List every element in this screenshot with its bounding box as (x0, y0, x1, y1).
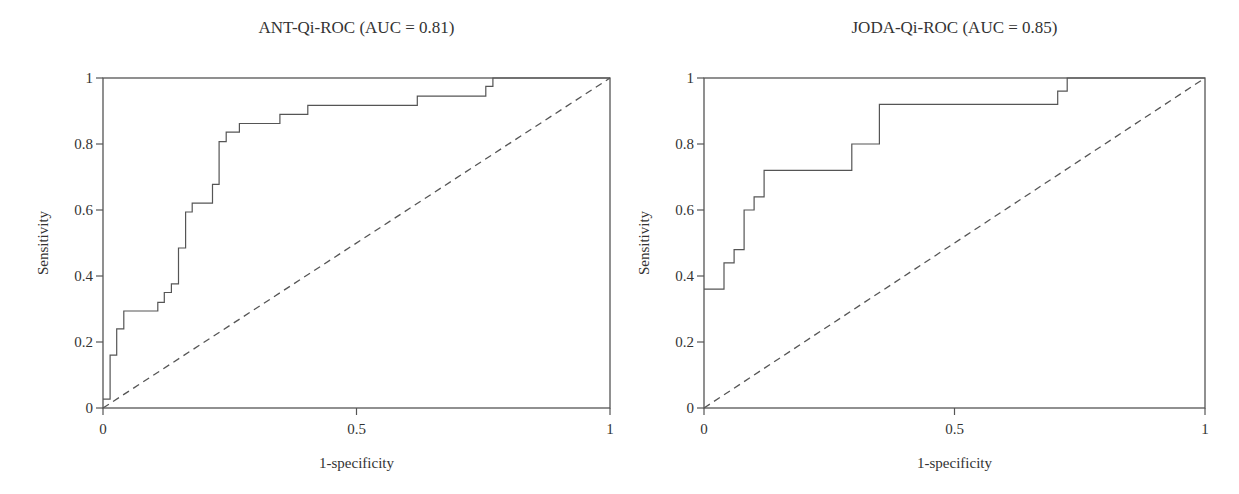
x-tick-label: 1 (1201, 421, 1209, 437)
y-tick-label: 0.8 (675, 136, 694, 152)
y-tick-label: 0.2 (74, 334, 93, 350)
roc-curve (704, 78, 1205, 289)
x-axis-label: 1-specificity (319, 455, 394, 471)
reference-diagonal-line (103, 78, 610, 408)
x-axis-label: 1-specificity (917, 455, 992, 471)
y-tick-label: 0.2 (675, 334, 694, 350)
chart-svg: JODA-Qi-ROC (AUC = 0.85) 1-specificity S… (620, 0, 1239, 494)
x-tick-label: 0.5 (945, 421, 964, 437)
y-tick-label: 0.4 (74, 268, 93, 284)
x-tick-label: 1 (606, 421, 614, 437)
chart-svg: ANT-Qi-ROC (AUC = 0.81) 1-specificity Se… (0, 0, 620, 494)
y-axis-label: Sensitivity (35, 210, 51, 275)
chart-title: JODA-Qi-ROC (AUC = 0.85) (851, 18, 1057, 37)
y-tick-label: 0.6 (74, 202, 93, 218)
roc-chart-ant-qi: ANT-Qi-ROC (AUC = 0.81) 1-specificity Se… (0, 0, 620, 494)
y-tick-label: 0.8 (74, 136, 93, 152)
y-axis-label: Sensitivity (636, 210, 652, 275)
reference-diagonal-line (704, 78, 1205, 408)
roc-chart-joda-qi: JODA-Qi-ROC (AUC = 0.85) 1-specificity S… (620, 0, 1239, 494)
y-tick-label: 0 (86, 400, 94, 416)
chart-title: ANT-Qi-ROC (AUC = 0.81) (259, 18, 455, 37)
plot-area: 00.20.40.60.8100.51 (675, 70, 1209, 437)
x-tick-label: 0.5 (347, 421, 366, 437)
y-tick-label: 1 (687, 70, 695, 86)
y-tick-label: 1 (86, 70, 94, 86)
x-tick-label: 0 (700, 421, 708, 437)
y-tick-label: 0 (687, 400, 695, 416)
plot-area: 00.20.40.60.8100.51 (74, 70, 614, 437)
roc-curve (103, 78, 610, 399)
x-tick-label: 0 (99, 421, 107, 437)
y-tick-label: 0.4 (675, 268, 694, 284)
y-tick-label: 0.6 (675, 202, 694, 218)
